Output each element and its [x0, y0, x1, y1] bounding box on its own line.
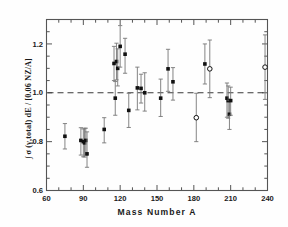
- data-point-filled-square: [118, 45, 122, 49]
- plot-frame: [47, 20, 268, 191]
- data-point-filled-square: [63, 134, 67, 138]
- y-tick-label: 0.6: [32, 186, 43, 195]
- data-point-filled-square: [166, 67, 170, 71]
- y-tick-label: 1.2: [32, 40, 43, 49]
- data-point-open-circle: [207, 67, 212, 72]
- plot-area: 60901201501802102400.60.81.01.2: [0, 0, 288, 227]
- y-tick-label: 1.0: [32, 88, 43, 97]
- data-point-filled-square: [102, 128, 106, 132]
- x-tick-label: 180: [187, 194, 200, 203]
- figure-root: 60901201501802102400.60.81.01.2 ∫ σ (γ,t…: [0, 0, 288, 227]
- x-axis-label: Mass Number A: [46, 207, 268, 217]
- data-point-open-circle: [194, 115, 199, 120]
- data-point-filled-square: [136, 86, 140, 90]
- data-point-filled-square: [143, 91, 147, 95]
- x-tick-label: 60: [42, 194, 50, 203]
- y-axis-label: ∫ σ (γ,total) dE / [0.06 NZ/A]: [24, 29, 33, 189]
- y-tick-label: 0.8: [32, 137, 43, 146]
- x-tick-label: 120: [114, 194, 127, 203]
- data-point-filled-square: [85, 152, 89, 156]
- chart-svg: 60901201501802102400.60.81.01.2: [0, 0, 288, 227]
- x-tick-label: 90: [79, 194, 87, 203]
- x-tick-label: 150: [151, 194, 164, 203]
- data-point-filled-square: [159, 96, 163, 100]
- x-tick-label: 210: [224, 194, 237, 203]
- data-point-filled-square: [113, 96, 117, 100]
- data-point-filled-square: [127, 109, 131, 113]
- x-tick-label: 240: [261, 194, 274, 203]
- data-point-open-circle: [263, 65, 268, 70]
- x-axis-label-text: Mass Number A: [118, 207, 197, 217]
- data-point-filled-square: [123, 52, 127, 56]
- y-axis-label-text: ∫ σ (γ,total) dE / [0.06 NZ/A]: [24, 58, 33, 159]
- data-point-filled-square: [229, 99, 233, 103]
- data-point-filled-square: [139, 87, 143, 91]
- data-point-filled-square: [203, 62, 207, 66]
- data-point-filled-square: [171, 80, 175, 84]
